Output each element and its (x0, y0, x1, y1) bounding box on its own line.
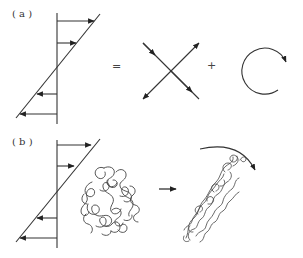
panel-a-shear-profile (16, 13, 100, 124)
stretched-polymer-icon (183, 155, 246, 242)
panel-b-shear-profile (16, 139, 100, 248)
rotation-circle-icon (242, 48, 286, 94)
rotation-arc-icon (200, 147, 255, 170)
shear-flow-diagram (0, 0, 303, 258)
coiled-polymer-icon (81, 167, 139, 236)
pure-strain-cross-icon (143, 43, 199, 99)
